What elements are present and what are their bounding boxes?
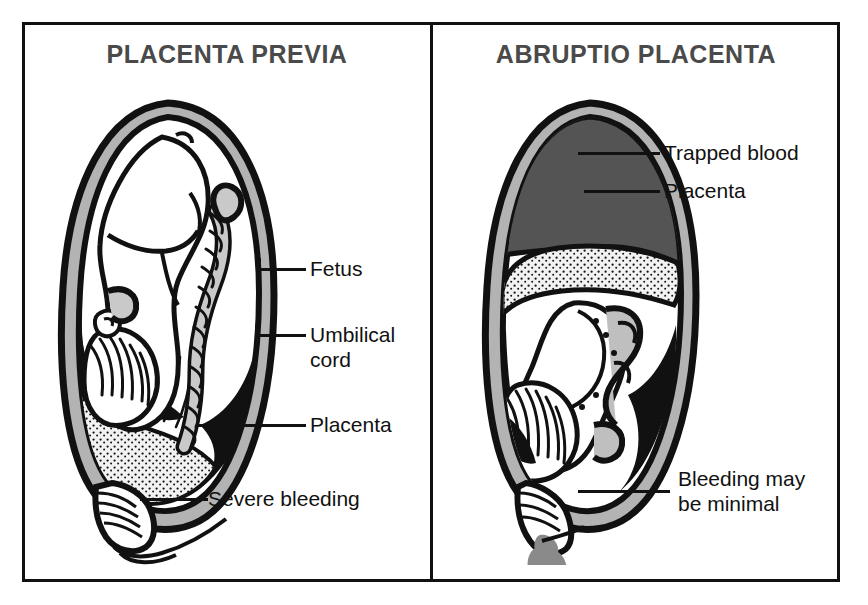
label-placenta-left: Placenta (310, 412, 392, 437)
leader-umbilical-cord (256, 334, 306, 337)
leader-fetus (258, 268, 306, 271)
panel-divider (430, 22, 433, 582)
leader-trapped-blood (578, 152, 660, 155)
figure-root: PLACENTA PREVIA ABRUPTIO PLACENTA (0, 0, 868, 605)
cord-coil (108, 289, 136, 321)
fetus-foot (594, 424, 622, 460)
label-placenta-right: Placenta (664, 178, 746, 203)
leader-bleeding-minimal (578, 490, 670, 493)
leader-placenta-left (198, 424, 306, 427)
label-trapped-blood: Trapped blood (664, 140, 799, 165)
label-fetus: Fetus (310, 256, 363, 281)
leader-severe-bleeding (140, 498, 208, 501)
leader-placenta-right (584, 190, 660, 193)
panel-title-placenta-previa: PLACENTA PREVIA (24, 40, 430, 69)
panel-title-abruptio-placenta: ABRUPTIO PLACENTA (434, 40, 838, 69)
leader-fetus-tick (258, 258, 261, 280)
label-umbilical-cord: Umbilical cord (310, 322, 395, 372)
leader-umbilical-cord-tick (256, 324, 259, 346)
label-bleeding-minimal: Bleeding may be minimal (678, 466, 805, 516)
label-severe-bleeding: Severe bleeding (208, 486, 360, 511)
